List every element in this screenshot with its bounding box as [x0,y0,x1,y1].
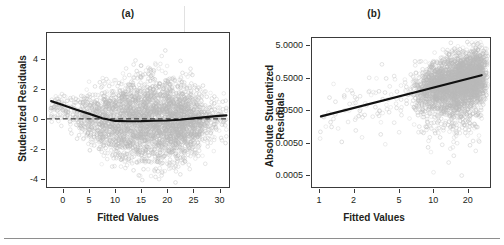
panel-a-x-tick-label: 25 [188,195,198,205]
panel-a-x-tick [63,189,64,193]
panel-b-y-axis-title-line1: Absolute Studentized [264,65,275,167]
panel-a-x-tick [89,189,90,193]
panel-a-y-axis-title: Studentized Residuals [17,29,28,189]
panel-b-title: (b) [248,8,500,19]
panel-b-regression-line [312,38,490,187]
panel-a-loess-polyline [51,101,226,121]
panel-a-plot-area [46,32,230,188]
panel-b-x-tick [354,189,355,193]
panel-b-plot-area [311,37,491,188]
panel-b-y-tick [306,143,310,144]
panel-a-loess-curve [47,33,229,187]
panel-a-x-tick [115,189,116,193]
panel-b-x-axis-title: Fitted Values [248,212,500,223]
panel-a-x-tick-label: 15 [136,195,146,205]
panel-a-x-tick-label: 20 [162,195,172,205]
panel-b-x-tick-label: 1 [317,195,322,205]
panel-a-y-tick [41,119,45,120]
panel-b-y-tick [306,78,310,79]
footer-rule [4,238,500,239]
panel-b-regression-segment [321,75,482,116]
panel-a-x-tick [193,189,194,193]
panel-a-y-tick [41,179,45,180]
panel-b-x-tick-label: 2 [351,195,356,205]
panel-a-x-tick [167,189,168,193]
panel-a-x-tick-label: 10 [110,195,120,205]
panel-a-title: (a) [2,8,254,19]
panel-b-x-tick [433,189,434,193]
panel-b-y-axis-title: Absolute StudentizedResiduals [264,31,286,201]
panel-b-y-tick [306,45,310,46]
figure-residual-diagnostics: (a) -4-2024051015202530 Studentized Resi… [0,0,504,245]
panel-a-y-tick [41,89,45,90]
panel-a-x-tick-label: 0 [60,195,65,205]
panel-b-x-tick [399,189,400,193]
panel-b-y-axis-title-line2: Residuals [275,92,286,139]
panel-b-x-tick [319,189,320,193]
panel-b-y-tick [306,175,310,176]
panel-a-y-tick [41,59,45,60]
panel-a-x-tick [220,189,221,193]
panel-b-x-tick-label: 20 [463,195,473,205]
panel-a-x-tick [141,189,142,193]
panel-b-y-tick [306,110,310,111]
panel-a-x-axis-title: Fitted Values [2,212,254,223]
panel-a-x-tick-label: 30 [214,195,224,205]
panel-b: (b) 0.00050.00500.05000.50005.0000125102… [252,0,504,245]
panel-a-y-tick [41,149,45,150]
panel-b-x-tick [468,189,469,193]
panel-a: (a) -4-2024051015202530 Studentized Resi… [0,0,252,245]
panel-a-x-tick-label: 5 [86,195,91,205]
panel-b-x-tick-label: 10 [428,195,438,205]
panel-b-x-tick-label: 5 [396,195,401,205]
